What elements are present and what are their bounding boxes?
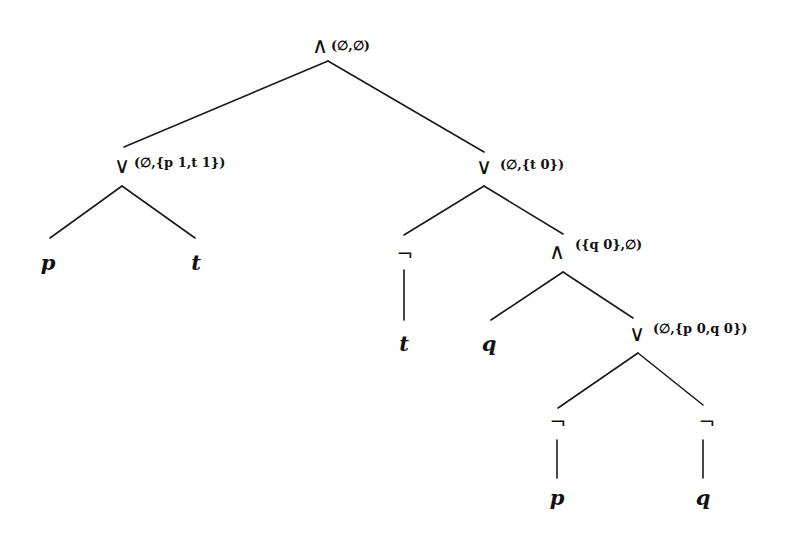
leaf-p-left: p [41, 252, 56, 273]
and-inner-operator: ∧ [549, 241, 565, 263]
or-left-annotation: (∅,{p 1,t 1}) [134, 156, 225, 169]
edge-root-or-right [328, 61, 484, 152]
leaf-t-negated: t [399, 333, 409, 354]
or-right-annotation: (∅,{t 0}) [500, 158, 564, 171]
edge-root-or-left [124, 61, 328, 147]
edge-or-right-and-inner [484, 186, 563, 234]
root-and-operator: ∧ [312, 35, 328, 57]
leaf-q-negated: q [696, 487, 711, 508]
leaf-q-inner: q [482, 333, 497, 354]
leaf-p-negated: p [550, 487, 565, 508]
or-left-operator: ∨ [114, 155, 130, 177]
edge-or-left-p [50, 186, 122, 238]
edge-or-right-not-t [404, 186, 484, 235]
or-inner-annotation: (∅,{p 0,q 0}) [653, 322, 747, 335]
edge-or-left-t [122, 186, 195, 238]
edge-and-inner-q [491, 272, 563, 320]
not-p-operator: ¬ [550, 412, 567, 432]
not-t-operator: ¬ [397, 244, 414, 264]
leaf-t-left: t [191, 252, 201, 273]
tree-edges [0, 0, 796, 536]
not-q-operator: ¬ [699, 412, 716, 432]
root-annotation: (∅,∅) [331, 39, 370, 52]
edge-and-inner-or-inner [563, 272, 633, 318]
edge-or-inner-not-q [638, 353, 703, 405]
or-inner-operator: ∨ [629, 323, 645, 345]
parse-tree-diagram: ∧ (∅,∅) ∨ (∅,{p 1,t 1}) ∨ (∅,{t 0}) p t … [0, 0, 796, 536]
and-inner-annotation: ({q 0},∅) [575, 238, 642, 251]
or-right-operator: ∨ [476, 156, 492, 178]
edge-or-inner-not-p [558, 353, 638, 408]
